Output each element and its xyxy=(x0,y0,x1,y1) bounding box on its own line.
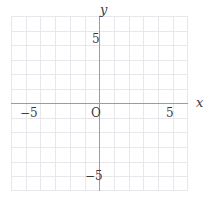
coordinate-grid-figure: y x O −5 5 5 −5 xyxy=(0,0,213,207)
x-axis-label: x xyxy=(196,96,203,109)
origin-label: O xyxy=(91,107,101,119)
y-tick-label-positive-5: 5 xyxy=(92,33,100,45)
x-axis-line xyxy=(11,103,188,104)
x-tick-label-negative-5: −5 xyxy=(20,107,38,119)
y-axis-label: y xyxy=(100,3,107,16)
x-tick-label-positive-5: 5 xyxy=(166,107,174,119)
y-tick-label-negative-5: −5 xyxy=(85,170,103,182)
